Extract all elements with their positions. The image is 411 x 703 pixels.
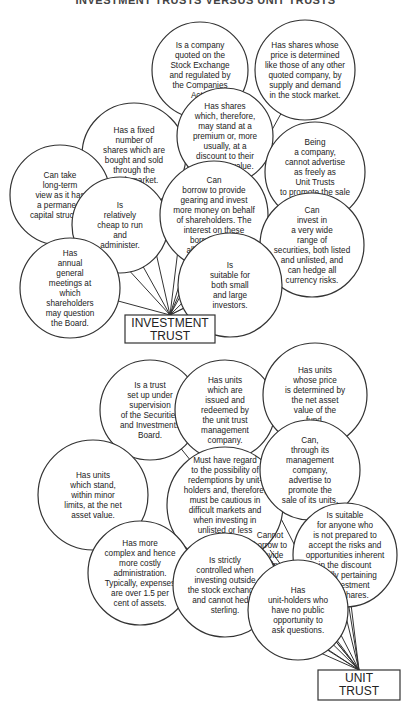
bubble-text-line: management	[286, 456, 335, 465]
bubble-text-line: long-term	[43, 181, 78, 190]
bubble-text-line: Cannot	[257, 531, 284, 540]
bubble-text-line: Has units	[208, 376, 242, 385]
bubble-text-line: whose price	[292, 376, 337, 385]
investment-trust-bubbles: Is a companyquoted on theStock Exchangea…	[10, 20, 365, 338]
bubble-text-line: quoted company, by	[268, 71, 342, 80]
bubble-text-line: Has	[63, 249, 78, 258]
bubble-text-line: number of	[116, 136, 154, 145]
bubble-text-line: are over 1.5 per	[111, 589, 169, 598]
bubble-text-line: within minor	[70, 491, 115, 500]
bubble-text-line: Has more	[122, 539, 158, 548]
bubble-text-line: Is	[227, 261, 233, 270]
bubble-text-line: may question	[46, 309, 95, 318]
bubble-text-line: quoted on the	[175, 51, 226, 60]
bubble-text-line: difficult markets and	[189, 506, 262, 515]
unit-trust-bubbles: Is a trustset up undersupervisionof the …	[38, 343, 397, 660]
bubble-text-line: and unlisted, and	[281, 256, 344, 265]
bubble-text-line: holders and, therefore,	[184, 486, 266, 495]
bubble-text-line: investors.	[212, 301, 247, 310]
unit-trust-diagram: Is a trustset up undersupervisionof the …	[38, 343, 400, 700]
ut-bubble: Hasunit-holders whohave no publicopportu…	[248, 560, 348, 660]
bubble-text-line: Is a company	[176, 41, 226, 50]
bubble-text-line: view as it has	[35, 191, 84, 200]
bubble-text-line: a company,	[294, 148, 336, 157]
bubble-text-line: supply and demand	[269, 81, 341, 90]
bubble-text-line: the net asset	[292, 396, 340, 405]
bubble-text-line: Being	[305, 138, 326, 147]
bubble-text-line: gearing and invest	[181, 196, 249, 205]
bubble-text-line: limits, at the net	[64, 501, 122, 510]
bubble-text-line: more costly	[119, 559, 162, 568]
bubble-text-line: suitable for	[210, 271, 250, 280]
investment-trust-hub: INVESTMENTTRUST	[125, 315, 215, 343]
bubble-text-line: general	[56, 269, 83, 278]
bubble-text-line: set up under	[127, 391, 173, 400]
bubble-circle	[255, 20, 355, 120]
bubble-text-line: Has	[291, 586, 306, 595]
bubble-text-line: through its	[291, 446, 329, 455]
bubble-text-line: company.	[208, 436, 243, 445]
bubble-text-line: administration.	[113, 569, 166, 578]
bubble-text-line: is not prepared to	[313, 531, 377, 540]
hub-label: TRUST	[339, 684, 380, 698]
bubble-text-line: Board.	[138, 431, 162, 440]
hub-label: TRUST	[150, 329, 191, 343]
bubble-text-line: Unit Trusts	[295, 178, 334, 187]
bubble-text-line: more money on behalf	[173, 206, 255, 215]
bubble-text-line: shareholders	[46, 299, 93, 308]
bubble-text-line: may stand at a	[198, 122, 252, 131]
bubble-text-line: Has shares whose	[271, 41, 339, 50]
bubble-text-line: the unit trust	[202, 416, 248, 425]
bubble-text-line: supervision	[129, 401, 171, 410]
bubble-text-line: like those of any other	[265, 61, 345, 70]
bubble-text-line: in the stock market.	[270, 91, 341, 100]
bubble-text-line: sale of its units.	[282, 496, 338, 505]
bubble-text-line: sterling.	[211, 606, 240, 615]
it-bubble: Has shares whoseprice is determinedlike …	[255, 20, 355, 120]
bubble-text-line: management	[201, 426, 250, 435]
bubble-text-line: Has a fixed	[114, 126, 155, 135]
bubble-text-line: Can	[304, 206, 319, 215]
bubble-text-line: meetings at	[49, 279, 92, 288]
bubble-text-line: complex and hence	[104, 549, 175, 558]
bubble-text-line: cheap to run	[97, 221, 143, 230]
bubble-text-line: Can take	[44, 171, 77, 180]
bubble-text-line: relatively	[104, 211, 137, 220]
bubble-text-line: borrow to provide	[182, 186, 246, 195]
bubble-text-line: shares which are	[103, 146, 165, 155]
bubble-text-line: Is suitable	[327, 511, 364, 520]
bubble-text-line: opportunities inherent	[306, 551, 385, 560]
bubble-text-line: Has shares	[204, 102, 245, 111]
bubble-text-line: which	[59, 289, 81, 298]
bubble-text-line: controlled when	[196, 566, 254, 575]
bubble-text-line: which, therefore,	[194, 112, 256, 121]
bubble-text-line: for anyone who	[317, 521, 373, 530]
bubble-text-line: Is strictly	[209, 556, 242, 565]
bubble-text-line: opportunity to	[273, 616, 323, 625]
bubble-text-line: administer.	[100, 241, 140, 250]
bubble-text-line: currency risks.	[286, 276, 339, 285]
bubble-text-line: and Investments	[120, 421, 180, 430]
bubble-text-line: promote the	[288, 486, 332, 495]
comparison-diagram: Is a companyquoted on theStock Exchangea…	[0, 0, 411, 703]
bubble-text-line: unit-holders who	[268, 596, 329, 605]
bubble-text-line: usually, at a	[203, 142, 247, 151]
bubble-text-line: Has units	[76, 471, 110, 480]
bubble-text-line: can hedge all	[288, 266, 337, 275]
bubble-text-line: annual	[58, 259, 83, 268]
bubble-text-line: when investing in	[193, 516, 257, 525]
bubble-text-line: as freely as	[294, 168, 336, 177]
bubble-text-line: of shareholders. The	[177, 216, 252, 225]
bubble-text-line: company,	[293, 466, 328, 475]
ut-bubble: Has unitswhich areissued andredeemed byt…	[175, 360, 275, 460]
bubble-text-line: cent of assets.	[114, 599, 167, 608]
bubble-text-line: securities, both listed	[274, 246, 351, 255]
bubble-text-line: to the possibility of	[191, 466, 259, 475]
bubble-text-line: and	[113, 231, 127, 240]
bubble-text-line: have no public	[272, 606, 325, 615]
bubble-text-line: Has units	[298, 366, 332, 375]
bubble-text-line: Stock Exchange	[170, 61, 230, 70]
hub-label: INVESTMENT	[131, 316, 209, 330]
bubble-text-line: cannot advertise	[285, 158, 346, 167]
bubble-text-line: asset value.	[71, 511, 115, 520]
